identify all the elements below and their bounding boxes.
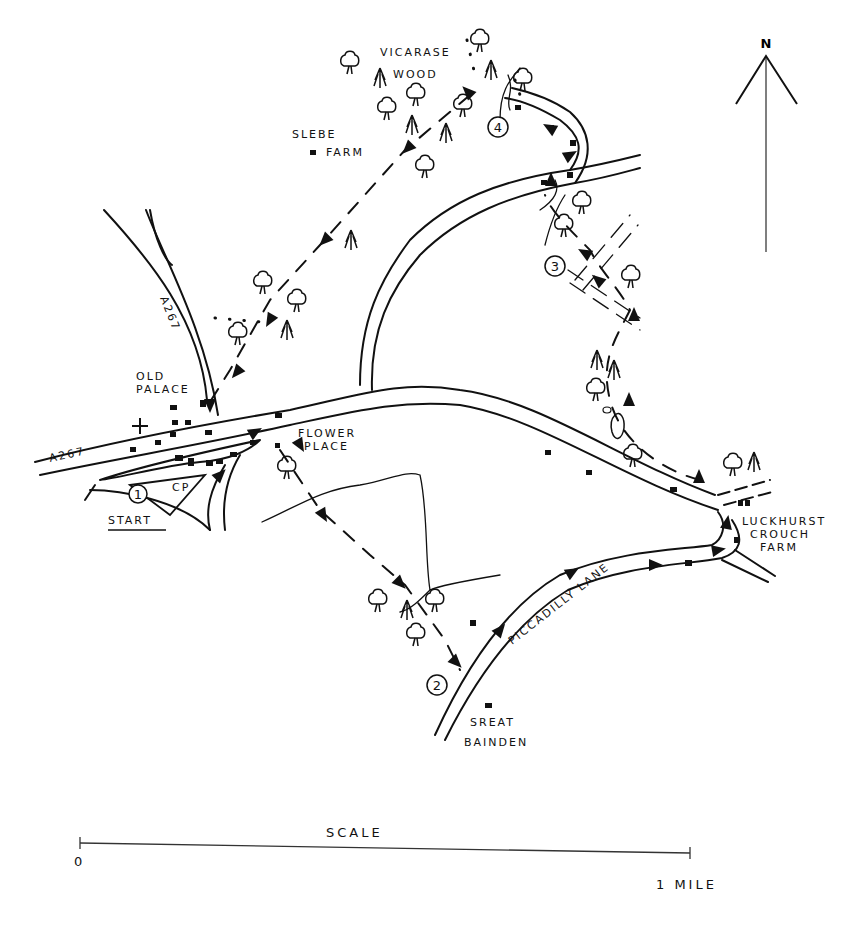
scale-bar: SCALE 0 1 MILE xyxy=(74,825,717,892)
label-glebe-farm: SLEBE xyxy=(292,128,337,141)
svg-text:3: 3 xyxy=(551,259,559,274)
waypoint-2: 2 xyxy=(427,675,447,695)
scale-title: SCALE xyxy=(326,825,383,840)
label-car-park: CP xyxy=(172,481,190,494)
label-vicarage-wood-2: WOOD xyxy=(393,68,438,81)
label-flower-place-2: PLACE xyxy=(304,440,349,453)
label-glebe-farm-2: FARM xyxy=(326,146,364,159)
church-cross-icon xyxy=(132,418,148,434)
waypoint-1: 1 xyxy=(129,485,147,503)
label-flower-place: FLOWER xyxy=(298,427,356,440)
walk-map: N xyxy=(0,0,851,926)
route-arrows xyxy=(204,82,734,672)
walk-route xyxy=(205,40,700,670)
label-a267-north: A267 xyxy=(157,294,183,333)
svg-text:1: 1 xyxy=(134,487,142,502)
label-luckhurst: LUCKHURST xyxy=(742,515,826,528)
waypoint-3: 3 xyxy=(545,256,565,276)
scale-start-label: 0 xyxy=(74,854,85,869)
label-vicarage-wood: VICARASE xyxy=(380,46,451,59)
label-old-palace-2: PALACE xyxy=(136,383,190,396)
north-arrow-icon: N xyxy=(736,36,797,252)
waypoint-4: 4 xyxy=(488,117,508,137)
label-luckhurst-2: CROUCH xyxy=(750,528,810,541)
svg-text:2: 2 xyxy=(433,678,441,693)
svg-text:4: 4 xyxy=(494,120,502,135)
conifer-tree-icons xyxy=(281,60,760,620)
label-luckhurst-3: FARM xyxy=(760,541,798,554)
label-great-bainden-2: BAINDEN xyxy=(464,736,528,749)
label-old-palace: OLD xyxy=(136,370,165,383)
buildings xyxy=(130,105,750,708)
label-a267-west: A267 xyxy=(48,445,86,465)
label-start: START xyxy=(108,514,152,527)
scale-end-label: 1 MILE xyxy=(656,877,717,892)
deciduous-tree-icons xyxy=(229,29,742,646)
north-label: N xyxy=(761,36,772,51)
label-great-bainden: SREAT xyxy=(470,716,515,729)
